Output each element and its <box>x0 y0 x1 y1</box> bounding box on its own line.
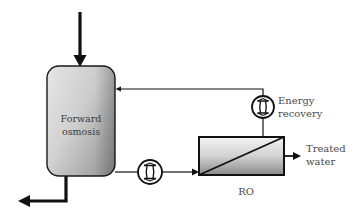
treated-water-label-2: water <box>306 156 335 167</box>
energy-recovery-icon <box>252 96 274 118</box>
forward-osmosis-label-1: Forward <box>61 113 102 124</box>
recycle-to-fo-arrow <box>116 87 264 97</box>
pump-to-ro-arrow <box>162 169 199 176</box>
forward-osmosis-vessel: Forward osmosis <box>47 66 115 176</box>
ro-module: RO <box>199 137 284 197</box>
process-diagram: Forward osmosis RO Treated water <box>0 0 354 220</box>
energy-recovery-label-1: Energy <box>278 95 315 106</box>
treated-water-label-1: Treated <box>306 143 346 154</box>
concentrate-outlet-arrow <box>18 176 66 207</box>
treated-water-arrow <box>284 152 301 160</box>
forward-osmosis-label-2: osmosis <box>62 126 100 137</box>
feed-inlet-arrow <box>74 12 87 67</box>
ro-label: RO <box>238 186 254 197</box>
pump-icon <box>138 160 162 184</box>
energy-recovery-label-2: recovery <box>278 108 323 119</box>
